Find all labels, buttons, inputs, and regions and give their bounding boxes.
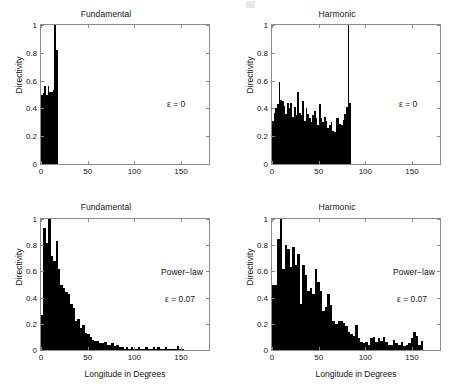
plot-area: Power−law ε = 0.07 00.20.40.60.810501001… bbox=[271, 218, 441, 351]
y-tick-label: 0 bbox=[264, 346, 268, 355]
y-tick-label: 0.8 bbox=[257, 241, 268, 250]
y-tick-mark bbox=[272, 350, 275, 351]
x-tick-mark bbox=[319, 347, 320, 350]
x-tick-mark bbox=[134, 347, 135, 350]
x-tick-label: 0 bbox=[39, 167, 43, 176]
y-tick-mark-right bbox=[437, 25, 440, 26]
bar-series bbox=[272, 25, 440, 164]
x-tick-label: 100 bbox=[128, 167, 141, 176]
x-tick-mark bbox=[319, 161, 320, 164]
x-tick-label: 50 bbox=[314, 167, 323, 176]
annotation-epsilon: ε = 0 bbox=[399, 99, 417, 109]
y-tick-mark bbox=[272, 53, 275, 54]
x-tick-mark-top bbox=[319, 25, 320, 28]
x-tick-mark-top bbox=[181, 25, 182, 28]
y-tick-mark bbox=[41, 245, 44, 246]
x-tick-label: 150 bbox=[174, 167, 187, 176]
bar-series bbox=[272, 219, 440, 350]
y-tick-mark-right bbox=[206, 81, 209, 82]
x-tick-label: 50 bbox=[83, 353, 92, 362]
y-tick-mark-right bbox=[206, 350, 209, 351]
y-tick-label: 0.4 bbox=[257, 293, 268, 302]
y-tick-label: 0.8 bbox=[257, 48, 268, 57]
plot-area: ε = 0 00.20.40.60.81050100150 bbox=[40, 24, 210, 165]
x-tick-mark-top bbox=[412, 25, 413, 28]
y-tick-label: 0.4 bbox=[257, 104, 268, 113]
panel-title: Fundamental bbox=[0, 202, 230, 212]
y-tick-mark bbox=[272, 298, 275, 299]
y-tick-mark bbox=[41, 324, 44, 325]
y-tick-mark-right bbox=[206, 324, 209, 325]
y-tick-label: 0.6 bbox=[257, 76, 268, 85]
x-tick-mark-top bbox=[88, 25, 89, 28]
x-tick-mark-top bbox=[365, 25, 366, 28]
y-tick-label: 0.6 bbox=[257, 267, 268, 276]
x-tick-label: 150 bbox=[405, 167, 418, 176]
y-tick-mark bbox=[41, 350, 44, 351]
y-tick-mark bbox=[272, 81, 275, 82]
annotation-model: Power−law bbox=[161, 267, 203, 277]
x-tick-mark bbox=[365, 161, 366, 164]
plot-area: Power−law ε = 0.07 00.20.40.60.810501001… bbox=[40, 218, 210, 351]
x-tick-label: 150 bbox=[174, 353, 187, 362]
x-tick-mark-top bbox=[272, 219, 273, 222]
x-tick-mark bbox=[412, 347, 413, 350]
bar-series bbox=[41, 219, 209, 350]
annotation-epsilon: ε = 0.07 bbox=[397, 294, 427, 304]
y-tick-mark-right bbox=[206, 25, 209, 26]
y-tick-mark-right bbox=[437, 245, 440, 246]
y-tick-mark-right bbox=[437, 108, 440, 109]
x-tick-label: 0 bbox=[270, 167, 274, 176]
bar bbox=[182, 349, 184, 350]
y-tick-label: 0.2 bbox=[26, 319, 37, 328]
x-tick-mark-top bbox=[181, 219, 182, 222]
y-tick-mark-right bbox=[437, 350, 440, 351]
annotation-epsilon: ε = 0 bbox=[167, 99, 185, 109]
y-axis-label: Directivity bbox=[14, 237, 24, 297]
x-tick-mark-top bbox=[134, 219, 135, 222]
annotation-epsilon: ε = 0.07 bbox=[165, 294, 195, 304]
x-tick-label: 0 bbox=[270, 353, 274, 362]
y-tick-mark-right bbox=[437, 81, 440, 82]
x-tick-mark-top bbox=[41, 219, 42, 222]
bar bbox=[349, 103, 351, 164]
x-tick-mark bbox=[272, 347, 273, 350]
y-tick-mark bbox=[272, 245, 275, 246]
x-tick-label: 100 bbox=[359, 353, 372, 362]
x-tick-label: 50 bbox=[83, 167, 92, 176]
plot-area: ε = 0 00.20.40.60.81050100150 bbox=[271, 24, 441, 165]
x-axis-label: Longitude in Degrees bbox=[40, 369, 210, 379]
y-tick-mark-right bbox=[206, 164, 209, 165]
y-tick-label: 1 bbox=[264, 21, 268, 30]
x-tick-mark bbox=[272, 161, 273, 164]
y-tick-mark-right bbox=[206, 298, 209, 299]
x-tick-mark-top bbox=[319, 219, 320, 222]
y-tick-label: 0.4 bbox=[26, 293, 37, 302]
x-tick-mark bbox=[134, 161, 135, 164]
y-tick-label: 0.6 bbox=[26, 267, 37, 276]
y-tick-mark bbox=[41, 136, 44, 137]
panel-top-left: Fundamental Directivity ε = 0 00.20.40.6… bbox=[0, 0, 230, 195]
y-tick-mark-right bbox=[437, 324, 440, 325]
y-tick-mark-right bbox=[437, 271, 440, 272]
y-tick-label: 0.8 bbox=[26, 241, 37, 250]
x-tick-mark bbox=[365, 347, 366, 350]
y-tick-mark bbox=[41, 271, 44, 272]
x-tick-mark bbox=[41, 161, 42, 164]
x-tick-mark-top bbox=[134, 25, 135, 28]
x-tick-mark bbox=[41, 347, 42, 350]
y-tick-label: 0.8 bbox=[26, 48, 37, 57]
panel-bottom-left: Fundamental Directivity Power−law ε = 0.… bbox=[0, 196, 230, 391]
y-tick-label: 0.2 bbox=[26, 132, 37, 141]
y-tick-mark-right bbox=[206, 53, 209, 54]
y-tick-mark bbox=[41, 53, 44, 54]
x-tick-label: 150 bbox=[405, 353, 418, 362]
panel-title: Fundamental bbox=[0, 9, 230, 19]
y-axis-label: Directivity bbox=[245, 237, 255, 297]
bar bbox=[421, 341, 424, 350]
x-tick-mark-top bbox=[88, 219, 89, 222]
panel-bottom-right: Harmonic Directivity Power−law ε = 0.07 … bbox=[230, 196, 460, 391]
y-tick-label: 0 bbox=[33, 160, 37, 169]
y-tick-label: 0 bbox=[264, 160, 268, 169]
y-tick-mark-right bbox=[437, 136, 440, 137]
